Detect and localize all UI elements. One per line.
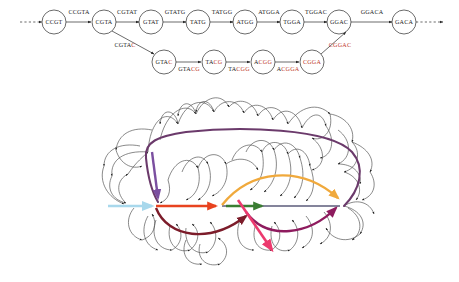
graph-edge bbox=[112, 152, 148, 176]
edge-label-acgga: ACGGA bbox=[277, 66, 300, 72]
graph-edge bbox=[119, 174, 128, 203]
graph-edge bbox=[232, 145, 262, 160]
graph-edge bbox=[290, 220, 298, 250]
graph-edge bbox=[226, 159, 258, 170]
background-edges-lower bbox=[128, 208, 330, 265]
graph-edge bbox=[302, 115, 326, 128]
graph-edge bbox=[272, 222, 280, 250]
background-edges-left bbox=[102, 129, 152, 204]
graph-edge bbox=[312, 138, 323, 170]
graph-edge bbox=[302, 216, 312, 248]
edge-label-gtacg: GTACG bbox=[178, 66, 200, 72]
graph-edge bbox=[128, 208, 142, 240]
edge-label-tacgg: TACGG bbox=[228, 66, 250, 72]
plum-outer-loop-path[interactable] bbox=[146, 129, 360, 206]
graph-edge bbox=[104, 145, 140, 166]
background-edges-right bbox=[326, 142, 374, 240]
node-label-gtac: GTAC bbox=[156, 59, 173, 65]
edge-label-atgga: ATGGA bbox=[258, 9, 280, 15]
edge-label-ccgta: CCGTA bbox=[68, 9, 90, 15]
graph-edge bbox=[198, 155, 226, 168]
node-label-tatg: TATG bbox=[190, 19, 206, 25]
graph-edge bbox=[250, 152, 263, 190]
background-edges-upper bbox=[148, 98, 358, 172]
graph-edge bbox=[288, 107, 330, 124]
bottom-tangled-graph bbox=[102, 98, 374, 265]
node-label-tacg: TACG bbox=[206, 59, 223, 65]
node-label-cgga: CGGA bbox=[303, 59, 321, 65]
edge-label-cgtac: CGTAC bbox=[114, 42, 135, 48]
edge-label-gtatg: GTATG bbox=[165, 9, 186, 15]
graph-edge bbox=[198, 164, 210, 200]
graph-edge bbox=[288, 149, 310, 166]
pink-exit-arrow[interactable] bbox=[238, 200, 272, 250]
graph-edge bbox=[264, 150, 276, 192]
node-label-ccgt: CCGT bbox=[45, 19, 62, 25]
graph-edge bbox=[199, 244, 220, 265]
graph-edge bbox=[320, 126, 332, 158]
graph-edge bbox=[246, 140, 274, 152]
graph-edge bbox=[116, 150, 142, 167]
graph-edge bbox=[196, 98, 229, 114]
edge-label-cggac: CGGAC bbox=[329, 42, 351, 48]
graph-edge bbox=[238, 220, 254, 250]
edge-label-tatgg: TATGG bbox=[212, 9, 233, 15]
graph-edge bbox=[258, 108, 288, 124]
graph-edge bbox=[229, 101, 258, 116]
edge-label-cgtat: CGTAT bbox=[117, 9, 137, 15]
graph-edge bbox=[116, 129, 152, 150]
graph-edge bbox=[190, 224, 198, 250]
top-kmer-graph: CCGT CGTA GTAT TATG ATGG TGGA GGAC GACA … bbox=[20, 9, 443, 74]
graph-edge bbox=[344, 206, 363, 234]
node-label-cgta: CGTA bbox=[96, 19, 113, 25]
node-label-ggac: GGAC bbox=[330, 19, 348, 25]
node-label-tgga: TGGA bbox=[283, 19, 301, 25]
graph-edge bbox=[178, 104, 196, 116]
graph-edge bbox=[186, 168, 199, 200]
graph-edge bbox=[214, 102, 244, 113]
node-label-gtat: GTAT bbox=[143, 19, 159, 25]
edge-label-tggac: TGGAC bbox=[305, 9, 327, 15]
edge-label-ggaca: GGACA bbox=[361, 9, 384, 15]
graph-edge bbox=[362, 172, 374, 200]
graph-edge bbox=[306, 166, 313, 201]
magenta-arrow[interactable] bbox=[246, 208, 336, 231]
graph-edge bbox=[212, 164, 227, 196]
background-edges-mid bbox=[160, 140, 313, 203]
graph-edge bbox=[330, 114, 353, 142]
main-node-labels: CCGT CGTA GTAT TATG ATGG TGGA GGAC GACA bbox=[45, 19, 413, 25]
figure-canvas: CCGT CGTA GTAT TATG ATGG TGGA GGAC GACA … bbox=[0, 0, 459, 282]
node-label-gaca: GACA bbox=[395, 19, 413, 25]
graph-edge bbox=[182, 157, 208, 172]
graph-edge bbox=[160, 180, 170, 203]
bubble-node-labels: GTAC TACG ACGG CGGA bbox=[156, 59, 322, 65]
node-label-acgg: ACGG bbox=[254, 59, 272, 65]
node-label-atgg: ATGG bbox=[236, 19, 253, 25]
graph-edge bbox=[208, 222, 216, 252]
graph-edge bbox=[110, 176, 126, 203]
graph-edge bbox=[218, 238, 227, 264]
graph-edge bbox=[102, 166, 124, 204]
